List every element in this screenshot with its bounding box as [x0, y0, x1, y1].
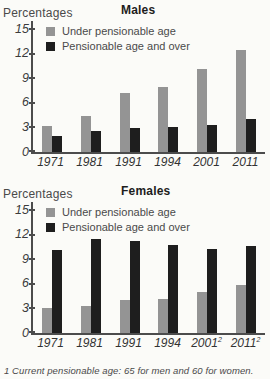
bar [197, 292, 207, 333]
bar-group-2001 [188, 202, 227, 333]
y-tick-label: 6 [5, 278, 29, 291]
y-tick-label: 0 [5, 146, 29, 159]
males-x-axis-labels: 197119811991199420012011 [31, 156, 265, 171]
legend-item-under-pensionable: Under pensionable age [46, 26, 190, 37]
males-legend: Under pensionable age Pensionable age an… [46, 26, 190, 52]
x-axis-label: 1994 [148, 337, 187, 352]
bar [120, 93, 130, 152]
under-pensionable-swatch-icon [46, 208, 55, 217]
bar [168, 127, 178, 152]
males-y-axis-title: Percentages [3, 6, 73, 20]
bar [91, 131, 101, 152]
x-axis-label: 1991 [109, 156, 148, 171]
bar [42, 126, 52, 152]
y-tick-mark [29, 283, 35, 285]
x-axis-label: 2001 [187, 156, 226, 171]
legend-label: Pensionable age and over [62, 222, 190, 233]
under-pensionable-swatch-icon [46, 27, 55, 36]
bar [168, 245, 178, 333]
bar [236, 50, 246, 152]
y-tick-mark [29, 307, 35, 309]
bar-group-2001 [188, 21, 227, 152]
y-tick-mark [29, 258, 35, 260]
footnote: 1 Current pensionable age: 65 for men an… [3, 365, 270, 376]
females-plot-area: Under pensionable age Pensionable age an… [31, 202, 265, 335]
pensionable-over-swatch-icon [46, 42, 55, 51]
males-chart-title: Males [121, 3, 155, 17]
x-axis-label: 1994 [148, 156, 187, 171]
footnote-marker: 2 [256, 336, 260, 343]
legend-item-pensionable-over: Pensionable age and over [46, 41, 190, 52]
y-tick-mark [29, 53, 35, 55]
bar [130, 128, 140, 152]
y-tick-label: 12 [5, 48, 29, 61]
bar [120, 300, 130, 333]
bar [52, 250, 62, 333]
females-chart: Percentages Females Under pensionable ag… [3, 184, 270, 352]
y-tick-label: 12 [5, 229, 29, 242]
females-legend: Under pensionable age Pensionable age an… [46, 207, 190, 233]
bar-group-2011 [226, 21, 265, 152]
females-y-axis-title: Percentages [3, 187, 73, 201]
males-plot-wrap: Under pensionable age Pensionable age an… [31, 21, 265, 171]
legend-item-pensionable-over: Pensionable age and over [46, 222, 190, 233]
females-chart-header: Percentages Females [3, 184, 270, 201]
y-tick-label: 15 [5, 204, 29, 217]
bar [236, 285, 246, 333]
males-plot-area: Under pensionable age Pensionable age an… [31, 21, 265, 154]
bar [81, 306, 91, 333]
y-tick-mark [29, 102, 35, 104]
x-axis-label: 2011 [226, 156, 265, 171]
x-axis-label: 20112 [226, 337, 265, 352]
footnote-marker: 2 [218, 336, 222, 343]
y-tick-mark [29, 150, 35, 152]
y-tick-mark [29, 28, 35, 30]
y-tick-mark [29, 331, 35, 333]
bar [207, 249, 217, 333]
x-axis-label: 1981 [70, 337, 109, 352]
y-tick-label: 15 [5, 23, 29, 36]
y-tick-mark [29, 126, 35, 128]
y-tick-label: 3 [5, 121, 29, 134]
x-axis-label: 1971 [31, 156, 70, 171]
x-axis-label: 1971 [31, 337, 70, 352]
bar [207, 125, 217, 152]
bar [246, 246, 256, 333]
y-tick-mark [29, 77, 35, 79]
legend-label: Pensionable age and over [62, 41, 190, 52]
females-plot-wrap: Under pensionable age Pensionable age an… [31, 202, 265, 352]
males-chart: Percentages Males Under pensionable age … [3, 3, 270, 171]
y-tick-label: 0 [5, 327, 29, 340]
y-tick-label: 9 [5, 253, 29, 266]
bar [158, 299, 168, 333]
bar [52, 136, 62, 152]
bar [158, 87, 168, 153]
bar [42, 308, 52, 333]
x-axis-label: 1991 [109, 337, 148, 352]
y-tick-label: 3 [5, 302, 29, 315]
bar [91, 239, 101, 333]
x-axis-label: 20012 [187, 337, 226, 352]
bar [81, 116, 91, 152]
bar-group-2011 [226, 202, 265, 333]
bar [197, 69, 207, 153]
females-x-axis-labels: 19711981199119942001220112 [31, 337, 265, 352]
y-tick-mark [29, 209, 35, 211]
pensionable-over-swatch-icon [46, 223, 55, 232]
y-tick-label: 6 [5, 97, 29, 110]
females-chart-title: Females [121, 184, 170, 198]
legend-item-under-pensionable: Under pensionable age [46, 207, 190, 218]
bar [130, 241, 140, 333]
males-chart-header: Percentages Males [3, 3, 270, 20]
legend-label: Under pensionable age [62, 26, 176, 37]
y-tick-label: 9 [5, 72, 29, 85]
legend-label: Under pensionable age [62, 207, 176, 218]
bar [246, 119, 256, 152]
y-tick-mark [29, 234, 35, 236]
x-axis-label: 1981 [70, 156, 109, 171]
